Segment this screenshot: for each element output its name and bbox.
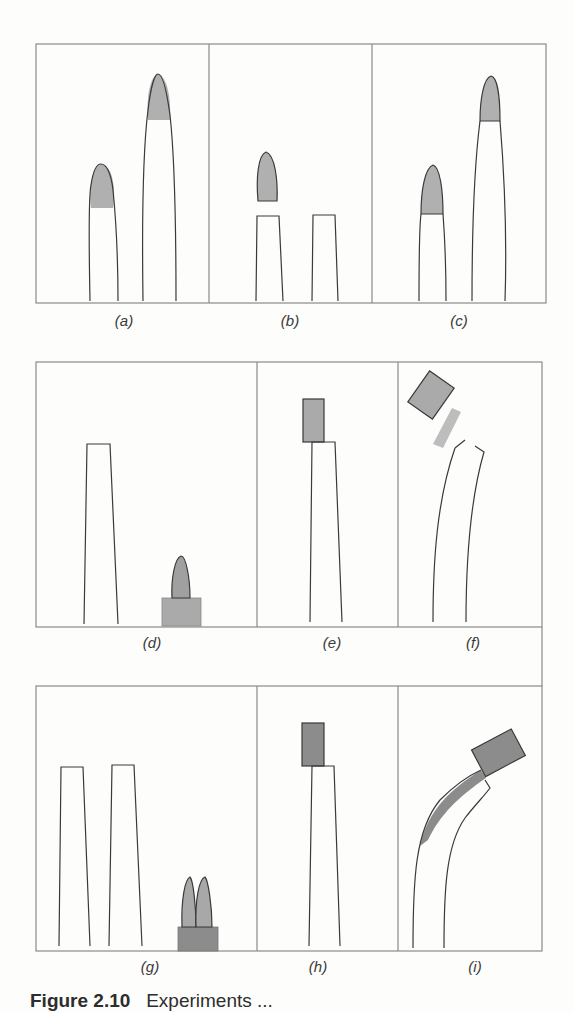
caption-text: Experiments ... (146, 990, 273, 1011)
panel-f (408, 371, 484, 622)
caption-number: Figure 2.10 (30, 990, 130, 1011)
figure-panels (0, 0, 573, 1013)
panel-label-h: (h) (309, 958, 327, 975)
panel-i (413, 729, 525, 948)
panel-label-a: (a) (115, 312, 133, 329)
panel-d (84, 444, 201, 626)
panel-h (302, 723, 340, 946)
panel-label-f: (f) (466, 634, 480, 651)
panel-g (59, 765, 218, 951)
panel-label-d: (d) (143, 634, 161, 651)
panel-label-g: (g) (141, 958, 159, 975)
figure-caption: Figure 2.10 Experiments ... (30, 990, 273, 1012)
panel-label-b: (b) (281, 312, 299, 329)
panel-b (256, 152, 338, 301)
panel-label-i: (i) (468, 958, 481, 975)
panel-e (303, 399, 342, 622)
panel-label-c: (c) (450, 312, 468, 329)
panel-a (89, 74, 176, 301)
panel-label-e: (e) (323, 634, 341, 651)
panel-c (419, 76, 506, 301)
